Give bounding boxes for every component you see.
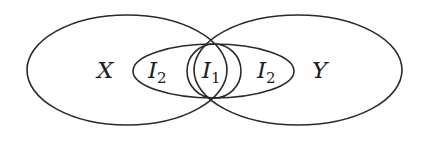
set-y-ellipse [194, 15, 402, 125]
label-i2-left: I2 [147, 57, 167, 87]
venn-diagram: X I2 I1 I2 Y [0, 0, 421, 152]
set-x-ellipse [27, 15, 227, 125]
label-y: Y [312, 57, 330, 83]
venn-diagram-svg: X I2 I1 I2 Y [0, 0, 421, 152]
label-x: X [95, 57, 115, 83]
label-i2-right: I2 [256, 57, 276, 87]
label-i1: I1 [201, 57, 221, 87]
